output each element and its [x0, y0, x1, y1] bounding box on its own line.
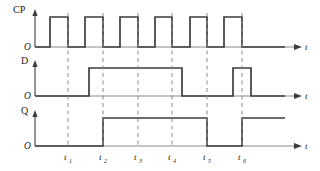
d-signal-label: D [21, 55, 28, 66]
time-marker-label-t4-sub: 4 [173, 158, 176, 164]
time-marker-label-t1-base: t [64, 152, 67, 162]
time-marker-label-t3-sub: 3 [138, 158, 142, 164]
time-marker-label-t6-sub: 6 [243, 158, 246, 164]
time-marker-label-t4-base: t [168, 152, 171, 162]
time-marker-label-t3: t 3 [134, 152, 142, 164]
time-marker-label-t1: t 1 [64, 152, 72, 164]
cp-signal-label: CP [13, 4, 26, 15]
row-cp: CP O t [13, 4, 308, 52]
timing-diagram-figure: CP O t D O t Q O t [0, 0, 320, 171]
q-waveform [35, 118, 285, 146]
cp-origin-label: O [24, 42, 31, 52]
cp-y-axis-arrow [32, 9, 37, 16]
d-origin-label: O [24, 91, 31, 101]
time-marker-label-t5-base: t [203, 152, 206, 162]
time-marker-label-t3-base: t [134, 152, 137, 162]
d-waveform [35, 68, 285, 96]
time-marker-label-t5-sub: 5 [208, 158, 211, 164]
q-origin-label: O [24, 141, 31, 151]
time-marker-labels: t 1 t 2 t 3 t 4 t 5 t 6 [64, 152, 246, 164]
timing-diagram-canvas: CP O t D O t Q O t [0, 0, 320, 171]
q-t-axis-label: t [305, 141, 308, 151]
q-t-axis-arrow [294, 143, 302, 149]
d-y-axis-arrow [32, 60, 37, 67]
time-marker-label-t5: t 5 [203, 152, 211, 164]
time-marker-label-t2-base: t [99, 152, 102, 162]
time-marker-label-t6: t 6 [238, 152, 246, 164]
d-t-axis-arrow [294, 93, 302, 99]
cp-waveform [35, 17, 285, 47]
time-marker-label-t1-sub: 1 [69, 158, 72, 164]
time-marker-label-t6-base: t [238, 152, 241, 162]
cp-t-axis-arrow [294, 44, 302, 50]
d-t-axis-label: t [305, 91, 308, 101]
row-q: Q O t [21, 105, 308, 151]
time-marker-label-t2: t 2 [99, 152, 107, 164]
q-signal-label: Q [21, 105, 29, 116]
row-d: D O t [21, 55, 308, 101]
time-marker-label-t2-sub: 2 [104, 158, 107, 164]
cp-t-axis-label: t [305, 42, 308, 52]
q-y-axis-arrow [32, 110, 37, 117]
time-marker-label-t4: t 4 [168, 152, 176, 164]
